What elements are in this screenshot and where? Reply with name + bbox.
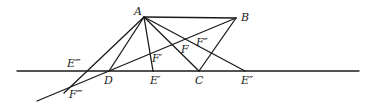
label-b: B xyxy=(240,11,249,24)
diagram-canvas: A B C D E′ E″ E‴ F F′ F″ F‴ xyxy=(0,0,370,106)
label-e-prime: E′ xyxy=(149,74,161,87)
segment-ad xyxy=(109,17,144,71)
label-e-triple-prime: E‴ xyxy=(66,57,81,70)
label-e-double-prime: E″ xyxy=(240,74,254,87)
label-a: A xyxy=(133,5,142,18)
label-d: D xyxy=(103,74,113,87)
label-c: C xyxy=(195,74,204,87)
geometry-diagram: A B C D E′ E″ E‴ F F′ F″ F‴ xyxy=(0,0,370,106)
label-f: F xyxy=(180,43,189,56)
label-f-double-prime: F″ xyxy=(195,36,209,49)
segment-ab xyxy=(144,17,236,18)
label-f-prime: F′ xyxy=(151,52,163,65)
label-f-triple-prime: F‴ xyxy=(68,88,83,101)
